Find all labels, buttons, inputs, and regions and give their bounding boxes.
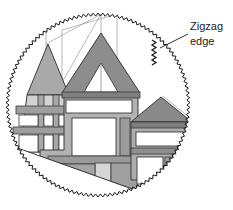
center-window-band xyxy=(66,100,132,113)
left-wall-beam-upper xyxy=(16,106,69,114)
center-pier xyxy=(120,118,130,156)
center-large-window xyxy=(72,118,116,156)
illustration-svg: Zigzag edge xyxy=(0,0,233,210)
annotation-label-line2: edge xyxy=(190,35,214,47)
right-wing-lower-panel xyxy=(165,157,192,184)
center-eaves-beam xyxy=(62,92,140,98)
right-wing-eaves-beam xyxy=(131,122,192,128)
right-wing-lower-window xyxy=(137,157,163,184)
right-wing-lower-beam xyxy=(131,148,192,154)
left-panel-e xyxy=(44,135,53,152)
annotation-label-line1: Zigzag xyxy=(190,20,223,32)
figure-container: Zigzag edge xyxy=(0,0,233,210)
left-wall-stud-1 xyxy=(38,95,44,152)
left-panel-a xyxy=(19,115,38,126)
left-panel-b xyxy=(44,115,53,126)
left-wall-beam-lower xyxy=(13,127,69,134)
left-wall-stud-2 xyxy=(53,95,59,152)
